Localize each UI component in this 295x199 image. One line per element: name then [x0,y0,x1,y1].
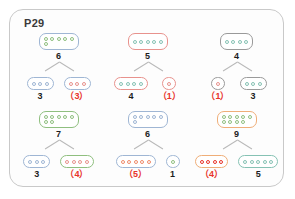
dot-icon [152,115,156,119]
dot-row [28,160,45,164]
dot-icon [82,82,86,86]
dot-icon [45,82,49,86]
node-value-left[interactable]: （1） [206,91,229,102]
dot-icon [133,115,137,119]
dot-row [121,160,151,164]
dot-icon [235,115,239,119]
dot-icon [241,120,245,124]
dot-icon [167,82,171,86]
node-value-right[interactable]: （1） [158,91,181,102]
dot-icon [238,40,242,44]
dot-icon [126,82,130,86]
branch-line-right [237,140,252,150]
dot-icon [127,160,131,164]
dot-icon [57,37,61,41]
dot-icon [159,40,163,44]
dot-icon [243,160,247,164]
dot-icon [152,40,156,44]
dot-row [167,82,171,86]
dot-icon [222,115,226,119]
dot-icon [50,37,54,41]
dot-row [200,160,224,164]
dot-icon [219,160,223,164]
child-node-left: 3 [27,77,54,102]
dot-box-left [114,77,148,90]
node-value-total: 6 [145,129,150,140]
page-title: P29 [24,17,44,29]
dot-icon [44,37,48,41]
node-value-right[interactable]: （3） [65,91,88,102]
child-nodes: 4（1） [114,77,181,102]
branch-line-left [222,62,237,72]
dot-icon [132,82,136,86]
dot-icon [44,42,48,46]
number-bond-tree-6: 9（4）5 [192,108,281,186]
dot-icon [206,160,210,164]
branch-line-right [148,140,163,150]
child-nodes: （1）3 [206,77,266,102]
branch-line-right [148,62,163,72]
dot-box-left [23,155,50,168]
node-value-right[interactable]: （4） [65,169,88,180]
dot-row [65,160,89,164]
child-nodes: （4）5 [195,155,279,180]
node-value-left[interactable]: （5） [124,169,147,180]
dot-row [44,37,74,41]
dot-icon [250,160,254,164]
dot-row [44,42,74,46]
dot-box-total [128,111,168,128]
node-value-right: 3 [250,91,255,102]
dot-icon [139,40,143,44]
number-bond-tree-2: 54（1） [103,30,192,108]
dot-row [225,40,249,44]
node-value-total: 5 [145,51,150,62]
dot-box-right [162,77,176,90]
child-node-left: （1） [206,77,229,102]
dot-icon [75,82,79,86]
dot-row [69,82,86,86]
number-bond-grid: 63（3）54（1）4（1）373（4）6（5）19（4）5 [14,30,281,186]
node-value-total: 4 [234,51,239,62]
branch-connector [30,62,88,77]
dot-icon [70,115,74,119]
child-nodes: （5）1 [116,155,180,180]
branch-connector [208,62,266,77]
dot-row [245,82,262,86]
dot-icon [225,40,229,44]
dot-box-right [240,77,267,90]
dot-icon [50,115,54,119]
dot-row [171,160,175,164]
dot-box-total [128,33,168,50]
dot-icon [41,160,45,164]
child-node-right: （1） [158,77,181,102]
dot-icon [231,40,235,44]
dot-row [119,82,143,86]
dot-icon [121,160,125,164]
node-value-total: 7 [56,129,61,140]
number-bond-tree-5: 6（5）1 [103,108,192,186]
dot-icon [69,82,73,86]
dot-box-right [64,77,91,90]
dot-icon [139,82,143,86]
child-nodes: 3（3） [27,77,91,102]
worksheet-card: P29 63（3）54（1）4（1）373（4）6（5）19（4）5 [9,9,284,187]
node-value-left: 3 [37,91,42,102]
dot-row [133,115,163,119]
number-bond-tree-1: 63（3） [14,30,103,108]
dot-icon [35,160,39,164]
dot-icon [248,115,252,119]
dot-icon [70,37,74,41]
node-value-left[interactable]: （4） [200,169,223,180]
dot-icon [213,160,217,164]
branch-line-left [44,62,59,72]
dot-icon [85,160,89,164]
node-value-total: 9 [234,129,239,140]
dot-icon [146,40,150,44]
dot-icon [72,160,76,164]
dot-icon [251,82,255,86]
child-node-right: （4） [60,155,94,180]
dot-icon [245,82,249,86]
dot-box-right [166,155,180,168]
dot-icon [241,115,245,119]
dot-icon [200,160,204,164]
